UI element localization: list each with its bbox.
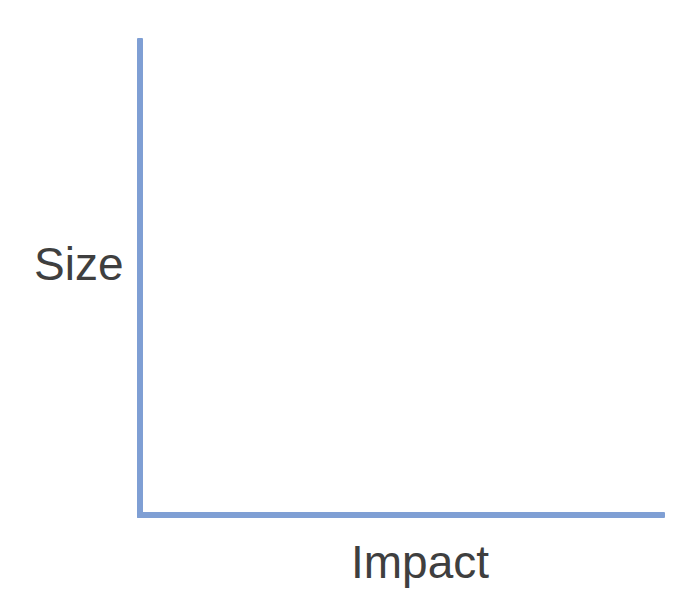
- y-axis-title: Size: [34, 241, 123, 287]
- y-axis-line: [137, 38, 143, 518]
- chart-canvas: Size Impact: [0, 0, 698, 609]
- plot-area: [143, 38, 665, 512]
- x-axis-line: [137, 512, 665, 518]
- x-axis-title: Impact: [351, 539, 489, 585]
